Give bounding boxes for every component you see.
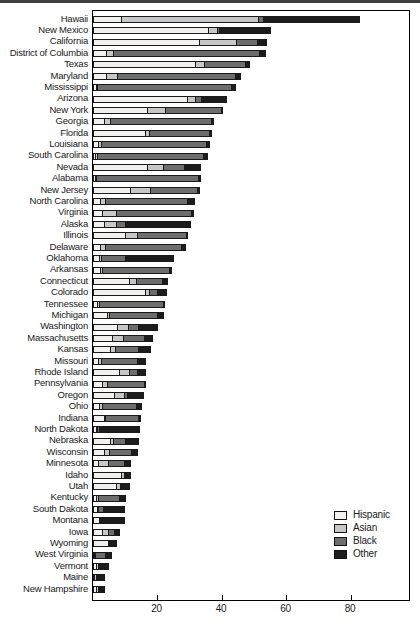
- bar-segment-asian: [102, 210, 117, 217]
- bar-row: [93, 460, 131, 467]
- category-label: Virginia: [0, 206, 88, 217]
- legend-item-black: Black: [334, 536, 390, 546]
- bar-segment-black: [236, 39, 258, 46]
- bar-segment-hispanic: [93, 278, 130, 285]
- bar-segment-other: [137, 358, 146, 365]
- bar-segment-other: [245, 61, 250, 68]
- category-label: Oklahoma: [0, 252, 88, 263]
- bar-segment-hispanic: [93, 61, 196, 68]
- bar-segment-other: [124, 460, 131, 467]
- bar-segment-black: [97, 153, 204, 160]
- bar-segment-black: [105, 198, 188, 205]
- bar-segment-black: [105, 415, 138, 422]
- bar-row: [93, 221, 191, 228]
- bar-segment-other: [184, 164, 201, 171]
- bar-row: [93, 267, 172, 274]
- bar-segment-other: [203, 153, 208, 160]
- category-label: Missouri: [0, 355, 88, 366]
- bar-segment-other: [121, 483, 129, 490]
- category-label: New York: [0, 104, 88, 115]
- bar-segment-other: [110, 540, 117, 547]
- category-label: Wisconsin: [0, 446, 88, 457]
- bar-segment-other: [206, 141, 210, 148]
- bar-row: [93, 346, 151, 353]
- category-label: South Carolina: [0, 149, 88, 160]
- bar-segment-other: [157, 312, 164, 319]
- bar-segment-other: [138, 324, 158, 331]
- bar-segment-hispanic: [93, 438, 111, 445]
- x-axis-tick: [286, 595, 287, 600]
- bar-segment-other: [101, 517, 125, 524]
- bar-segment-other: [209, 130, 212, 137]
- category-label: Montana: [0, 514, 88, 525]
- category-label: Mississippi: [0, 81, 88, 92]
- bar-segment-other: [201, 96, 227, 103]
- category-label: Alabama: [0, 172, 88, 183]
- category-label: South Dakota: [0, 503, 88, 514]
- bar-segment-black: [115, 346, 139, 353]
- category-label: Nevada: [0, 161, 88, 172]
- bar-row: [93, 96, 227, 103]
- bar-segment-hispanic: [93, 335, 113, 342]
- bar-row: [93, 232, 188, 239]
- bar-segment-hispanic: [93, 324, 118, 331]
- category-label: Ohio: [0, 400, 88, 411]
- bar-segment-other: [138, 415, 141, 422]
- category-label: Kentucky: [0, 491, 88, 502]
- bar-row: [93, 426, 140, 433]
- category-label: Illinois: [0, 229, 88, 240]
- bar-segment-asian: [121, 16, 259, 23]
- bar-segment-other: [125, 472, 131, 479]
- bar-row: [93, 50, 266, 57]
- bar-segment-hispanic: [93, 16, 122, 23]
- category-label: West Virginia: [0, 548, 88, 559]
- category-label: Minnesota: [0, 457, 88, 468]
- bar-segment-other: [186, 232, 188, 239]
- bar-segment-other: [137, 369, 146, 376]
- bar-row: [93, 175, 201, 182]
- bar-segment-black: [101, 141, 207, 148]
- bar-row: [93, 118, 214, 125]
- bar-segment-other: [136, 403, 142, 410]
- category-label: Rhode Island: [0, 366, 88, 377]
- bar-segment-other: [127, 392, 144, 399]
- bar-segment-black: [105, 244, 181, 251]
- bar-row: [93, 61, 250, 68]
- bar-row: [93, 73, 241, 80]
- category-label: Idaho: [0, 469, 88, 480]
- bar-segment-hispanic: [93, 369, 120, 376]
- category-label: New Jersey: [0, 184, 88, 195]
- legend-label-hispanic: Hispanic: [353, 510, 390, 520]
- bar-segment-black: [101, 358, 138, 365]
- bar-segment-asian: [104, 221, 118, 228]
- category-label: Louisiana: [0, 138, 88, 149]
- bar-segment-black: [109, 449, 132, 456]
- bar-segment-other: [138, 346, 151, 353]
- bar-row: [93, 107, 223, 114]
- x-axis-tick: [157, 595, 158, 600]
- bar-segment-hispanic: [93, 232, 126, 239]
- bar-row: [93, 39, 267, 46]
- bar-segment-other: [219, 27, 271, 34]
- bar-segment-hispanic: [93, 73, 107, 80]
- bar-segment-asian: [147, 107, 166, 114]
- bar-row: [93, 153, 208, 160]
- bar-row: [93, 574, 105, 581]
- bar-segment-hispanic: [93, 346, 111, 353]
- bar-row: [93, 141, 210, 148]
- bar-segment-other: [187, 198, 195, 205]
- bar-segment-other: [125, 255, 174, 262]
- bar-segment-hispanic: [93, 312, 108, 319]
- bar-segment-black: [96, 175, 199, 182]
- x-axis-tick: [222, 595, 223, 600]
- stacked-bar-chart-figure: HawaiiNew MexicoCaliforniaDistrict of Co…: [0, 0, 420, 627]
- category-label: Wyoming: [0, 537, 88, 548]
- bar-segment-black: [99, 301, 164, 308]
- category-label: Massachusetts: [0, 332, 88, 343]
- bar-segment-hispanic: [93, 164, 148, 171]
- bar-segment-other: [114, 529, 120, 536]
- bar-segment-other: [169, 267, 173, 274]
- bar-segment-black: [123, 335, 145, 342]
- bar-segment-black: [117, 73, 236, 80]
- bar-segment-hispanic: [93, 96, 188, 103]
